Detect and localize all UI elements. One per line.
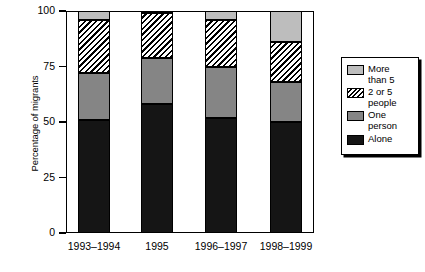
hatched-swatch-icon — [347, 88, 364, 98]
segment-2-or-5-people — [270, 42, 302, 82]
bar-column — [141, 11, 173, 233]
legend-label: Alone — [368, 134, 392, 145]
segment-more-than-5 — [205, 11, 237, 20]
segment-one-person — [270, 82, 302, 122]
y-tick-label-25: 25 — [43, 171, 55, 184]
x-label-1: 1995 — [145, 240, 168, 252]
mid-gray-swatch-icon — [347, 111, 364, 121]
segment-one-person — [205, 67, 237, 118]
segment-2-or-5-people — [141, 13, 173, 57]
bar-column — [78, 11, 110, 233]
x-label-0: 1993–1994 — [68, 240, 121, 252]
y-tick-mark — [59, 232, 66, 233]
segment-more-than-5 — [141, 11, 173, 13]
y-tick-mark — [59, 121, 66, 122]
y-tick-label-0: 0 — [49, 226, 55, 239]
segment-2-or-5-people — [78, 20, 110, 73]
bar-column — [270, 11, 302, 233]
segment-one-person — [78, 73, 110, 120]
y-tick-label-75: 75 — [43, 60, 55, 73]
black-swatch-icon — [347, 135, 364, 145]
x-label-2: 1996–1997 — [195, 240, 248, 252]
segment-alone — [141, 104, 173, 233]
bars-layer — [66, 11, 314, 233]
light-gray-swatch-icon — [347, 65, 364, 75]
legend-item-2-or-5-people: 2 or 5 people — [347, 87, 397, 108]
segment-more-than-5 — [270, 11, 302, 42]
segment-more-than-5 — [78, 11, 110, 20]
y-tick-label-100: 100 — [37, 4, 55, 17]
legend-item-one-person: One person — [347, 110, 397, 131]
x-label-3: 1998–1999 — [260, 240, 313, 252]
legend-label: 2 or 5 people — [368, 87, 397, 108]
bar-column — [205, 11, 237, 233]
legend: More than 5 2 or 5 people One person Alo… — [341, 57, 419, 155]
stacked-bar-chart: Percentage of migrants 100 75 50 25 0 19… — [0, 0, 425, 272]
legend-label: One person — [368, 110, 397, 131]
y-tick-mark — [59, 10, 66, 11]
segment-alone — [205, 118, 237, 233]
legend-item-alone: Alone — [347, 134, 392, 145]
segment-one-person — [141, 58, 173, 105]
legend-item-more-than-5: More than 5 — [347, 64, 394, 85]
segment-alone — [78, 120, 110, 233]
legend-label: More than 5 — [368, 64, 394, 85]
y-tick-mark — [59, 66, 66, 67]
segment-2-or-5-people — [205, 20, 237, 67]
segment-alone — [270, 122, 302, 233]
y-axis-title: Percentage of migrants — [29, 34, 40, 214]
y-tick-label-50: 50 — [43, 115, 55, 128]
y-tick-mark — [59, 177, 66, 178]
